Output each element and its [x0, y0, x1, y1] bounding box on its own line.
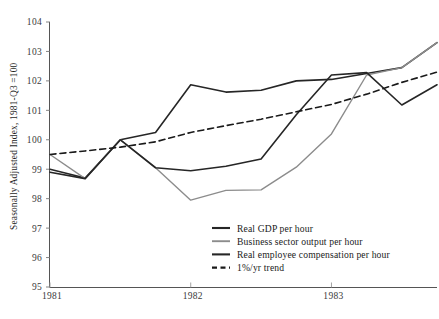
- x-tick-label: 1983: [323, 291, 343, 301]
- y-tick-label: 102: [27, 76, 42, 86]
- y-tick-label: 104: [27, 17, 42, 27]
- x-tick-label: 1981: [42, 291, 62, 301]
- legend-label-3: 1%/yr trend: [237, 262, 284, 273]
- legend-label-1: Business sector output per hour: [237, 236, 363, 247]
- x-tick-label: 1982: [183, 291, 203, 301]
- y-tick-label: 101: [27, 106, 42, 116]
- y-axis-title: Seasonally Adjusted Index, 1981-Q3 =100: [9, 62, 19, 230]
- line-chart: 9596979899100101102103104 198119821983 S…: [0, 0, 439, 319]
- y-tick-label: 98: [32, 194, 42, 204]
- legend-label-0: Real GDP per hour: [237, 223, 314, 234]
- y-tick-label: 100: [27, 135, 42, 145]
- legend-label-2: Real employee compensation per hour: [237, 249, 390, 260]
- chart-background: [0, 0, 439, 319]
- y-tick-label: 97: [32, 224, 42, 234]
- chart-container: 9596979899100101102103104 198119821983 S…: [0, 0, 439, 319]
- y-tick-label: 103: [27, 47, 42, 57]
- y-tick-label: 96: [32, 253, 42, 263]
- y-tick-label: 95: [32, 282, 42, 292]
- y-tick-label: 99: [32, 165, 42, 175]
